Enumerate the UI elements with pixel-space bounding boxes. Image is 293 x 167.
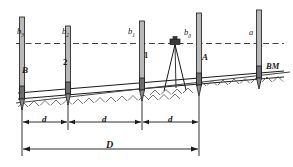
rod-a xyxy=(197,13,202,96)
dimension-label-total-D: D xyxy=(106,140,113,150)
ground-hatching xyxy=(18,77,283,108)
instrument-head xyxy=(170,39,180,45)
station-label-a: A xyxy=(202,53,208,62)
ground-line xyxy=(16,72,290,103)
station-label-1: 1 xyxy=(144,51,148,60)
rod-reading-label-b0: b0 xyxy=(184,28,191,39)
level-on-tripod xyxy=(164,37,186,92)
dimension-d-row xyxy=(22,96,199,130)
tripod-leg-right xyxy=(175,45,186,91)
leveling-diagram: b3 b2 b1 b0 a B 2 1 A BM d d d D xyxy=(0,0,293,167)
rod-reading-label-b3: b3 xyxy=(17,27,24,38)
diagram-canvas xyxy=(0,0,293,167)
ground-surface xyxy=(16,71,290,103)
station-label-b: B xyxy=(22,66,28,75)
rod-reading-label-b2: b2 xyxy=(62,27,69,38)
instrument-telescope xyxy=(173,37,177,40)
dimension-label-d-1: d xyxy=(42,115,47,124)
tripod-leg-center xyxy=(175,45,176,89)
rod-1 xyxy=(140,21,145,101)
rod-reading-label-a: a xyxy=(249,28,253,39)
benchmark-label: BM xyxy=(266,62,279,71)
rod-reading-label-b1: b1 xyxy=(128,27,135,38)
rod-bm xyxy=(257,10,262,89)
station-label-2: 2 xyxy=(63,58,67,67)
tripod-leg-left xyxy=(164,45,175,92)
dimension-label-d-2: d xyxy=(102,115,107,124)
slope-line-upper xyxy=(18,71,284,93)
dimension-label-d-3: d xyxy=(168,115,173,124)
